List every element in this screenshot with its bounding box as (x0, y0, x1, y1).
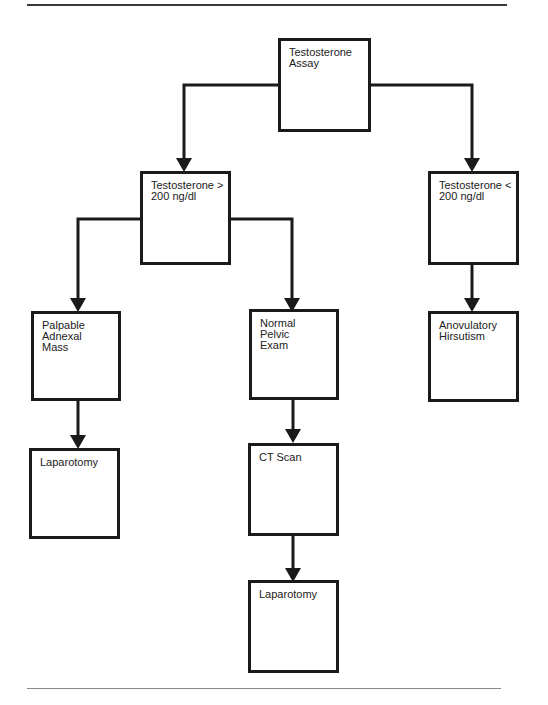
node-label: Testosterone Assay (289, 47, 364, 69)
node-label: Normal Pelvic Exam (260, 318, 332, 351)
edge-high-normal (229, 219, 292, 300)
arrowhead-icon (70, 435, 86, 449)
node-testosterone-low: Testosterone < 200 ng/dl (428, 171, 519, 265)
edge-high-mass (78, 219, 142, 300)
node-laparotomy-1: Laparotomy (29, 448, 120, 539)
node-ct-scan: CT Scan (248, 443, 339, 536)
node-testosterone-assay: Testosterone Assay (278, 38, 371, 132)
node-label: Testosterone > 200 ng/dl (151, 180, 224, 202)
arrowhead-icon (285, 429, 301, 443)
edge-assay-high (184, 85, 280, 160)
node-normal-pelvic-exam: Normal Pelvic Exam (249, 309, 339, 400)
arrowhead-icon (464, 298, 480, 312)
node-label: Testosterone < 200 ng/dl (439, 180, 512, 202)
node-label: CT Scan (259, 452, 332, 463)
node-anovulatory-hirsutism: Anovulatory Hirsutism (428, 311, 519, 402)
node-label: Palpable Adnexal Mass (42, 320, 114, 353)
bottom-rule (27, 688, 501, 689)
edge-assay-low (369, 85, 472, 160)
node-label: Laparotomy (259, 589, 332, 600)
node-label: Laparotomy (40, 457, 113, 468)
node-palpable-adnexal-mass: Palpable Adnexal Mass (31, 311, 121, 401)
node-laparotomy-2: Laparotomy (248, 580, 339, 673)
node-label: Anovulatory Hirsutism (439, 320, 512, 342)
arrowhead-icon (464, 158, 480, 172)
arrowhead-icon (70, 298, 86, 312)
node-testosterone-high: Testosterone > 200 ng/dl (140, 171, 231, 265)
arrowhead-icon (176, 158, 192, 172)
